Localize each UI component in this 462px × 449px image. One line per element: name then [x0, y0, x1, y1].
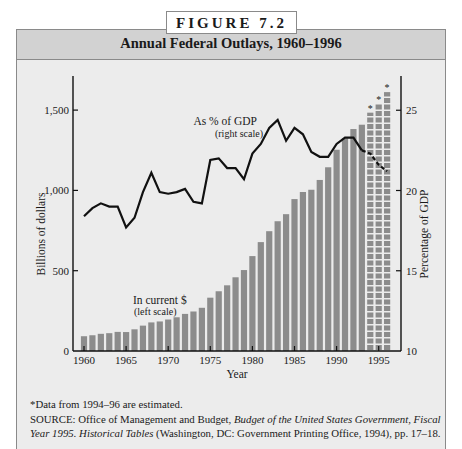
bar-estimated-segment — [367, 183, 373, 188]
bar-estimated-segment — [376, 183, 382, 188]
bar-estimated-segment — [384, 306, 390, 311]
bar — [140, 326, 146, 351]
bar-estimated-segment — [376, 332, 382, 337]
bar — [258, 242, 264, 351]
bar — [342, 138, 348, 351]
bar-estimated-segment — [384, 222, 390, 227]
source-label: SOURCE — [30, 413, 73, 425]
bar-estimated-segment — [376, 215, 382, 220]
bar-estimated-segment — [384, 124, 390, 129]
bar — [350, 129, 356, 351]
bar — [232, 277, 238, 351]
bar-estimated-segment — [376, 124, 382, 129]
bar-estimated-segment — [376, 293, 382, 298]
bar — [241, 270, 247, 351]
bar — [334, 150, 340, 351]
bar — [266, 231, 272, 351]
bar-estimated-segment — [384, 196, 390, 201]
x-axis-title: Year — [226, 368, 247, 380]
y-tick-left: 500 — [53, 265, 70, 277]
bar-estimated-segment — [376, 274, 382, 279]
y-tick-right: 10 — [406, 345, 418, 357]
bar-estimated-segment — [384, 105, 390, 110]
bar-estimated-segment — [367, 170, 373, 175]
bar-estimated-segment — [367, 274, 373, 279]
bar-estimated-segment — [376, 202, 382, 207]
bar-estimated-segment — [384, 332, 390, 337]
bar-estimated-segment — [384, 300, 390, 305]
bar-estimated-segment — [384, 209, 390, 214]
bar — [275, 221, 281, 351]
bar-estimated-segment — [384, 293, 390, 298]
bar-estimated-segment — [367, 332, 373, 337]
bar-estimated-segment — [376, 131, 382, 136]
bar-estimated-segment — [367, 124, 373, 129]
bar-estimated-segment — [367, 144, 373, 149]
bar — [216, 291, 222, 351]
bar-estimated-segment — [367, 254, 373, 259]
bar-estimated-segment — [384, 150, 390, 155]
bar-estimated-segment — [384, 215, 390, 220]
bar-estimated-segment — [367, 306, 373, 311]
bar-label: In current $ — [133, 294, 187, 306]
bar-estimated-segment — [384, 137, 390, 142]
bar-estimated-segment — [376, 306, 382, 311]
bar — [190, 311, 196, 351]
bar-estimated-segment — [376, 176, 382, 181]
y-tick-left: 1,000 — [44, 184, 69, 196]
bar — [157, 321, 163, 351]
bar — [182, 314, 188, 351]
x-tick: 1970 — [157, 354, 180, 366]
bar-estimated-segment — [376, 319, 382, 324]
estimate-asterisk: * — [385, 82, 390, 93]
bar-estimated-segment — [376, 235, 382, 240]
estimate-note: *Data from 1994–96 are estimated. — [30, 397, 442, 412]
bar-estimated-segment — [376, 170, 382, 175]
bar-estimated-segment — [367, 137, 373, 142]
bar-estimated-segment — [376, 111, 382, 116]
bar-estimated-segment — [384, 118, 390, 123]
bar-estimated-segment — [384, 326, 390, 331]
x-tick: 1990 — [326, 354, 349, 366]
bar-estimated-segment — [367, 176, 373, 181]
bar-estimated-segment — [367, 248, 373, 253]
bar-estimated-segment — [376, 209, 382, 214]
bar — [148, 322, 154, 351]
bar-estimated-segment — [384, 345, 390, 350]
bar — [283, 214, 289, 351]
x-tick: 1995 — [368, 354, 391, 366]
bar-estimated-segment — [376, 254, 382, 259]
source-note: SOURCE: Office of Management and Budget,… — [30, 412, 442, 441]
bar-estimated-segment — [384, 261, 390, 266]
bar-estimated-segment — [367, 228, 373, 233]
bar-estimated-segment — [384, 144, 390, 149]
bar-estimated-segment — [367, 215, 373, 220]
bar-estimated-segment — [367, 267, 373, 272]
bar — [89, 335, 95, 351]
bar — [174, 317, 180, 351]
bar-estimated-segment — [376, 105, 382, 110]
y-axis-right-title: Percentage of GDP — [418, 190, 431, 279]
bar-estimated-segment — [384, 189, 390, 194]
bar-estimated-segment — [384, 274, 390, 279]
bar-estimated-segment — [384, 280, 390, 285]
bar-estimated-segment — [376, 196, 382, 201]
bar-estimated-segment — [384, 319, 390, 324]
y-tick-right: 25 — [406, 104, 418, 116]
bar-estimated-segment — [376, 189, 382, 194]
bar-estimated-segment — [367, 313, 373, 318]
bar-estimated-segment — [367, 209, 373, 214]
bar — [291, 199, 297, 351]
bar-estimated-segment — [367, 235, 373, 240]
bar — [359, 125, 365, 351]
x-tick: 1960 — [73, 354, 96, 366]
bar-estimated-segment — [376, 280, 382, 285]
bar-estimated-segment — [367, 345, 373, 350]
bar-estimated-segment — [384, 241, 390, 246]
bar-estimated-segment — [376, 241, 382, 246]
bar-label-sub: (left scale) — [134, 306, 176, 318]
y-tick-right: 15 — [406, 265, 418, 277]
y-tick-left: 1,500 — [44, 104, 69, 116]
bar-estimated-segment — [376, 150, 382, 155]
